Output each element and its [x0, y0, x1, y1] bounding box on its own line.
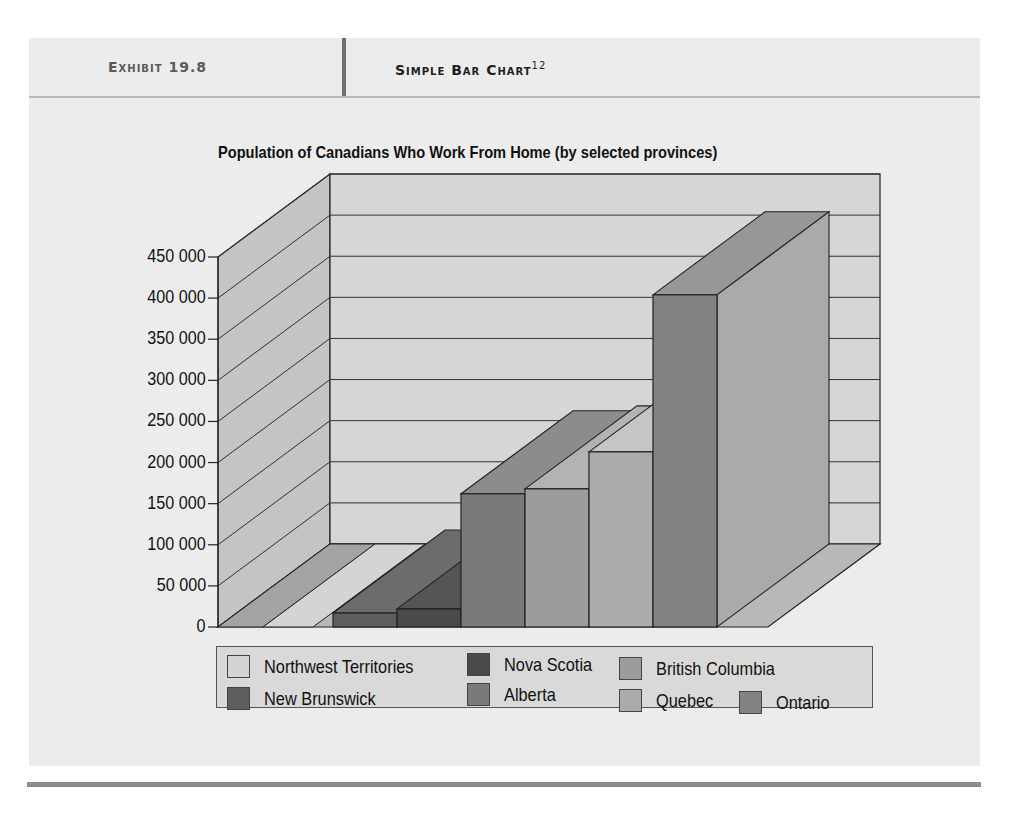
legend-label: Quebec [656, 690, 713, 712]
bar-front-alberta [461, 494, 525, 627]
y-tick-label: 100 000 [148, 533, 206, 555]
legend-swatch [739, 691, 762, 714]
bar-front-british-columbia [525, 489, 589, 627]
y-tick-label: 250 000 [148, 409, 206, 431]
y-tick-label: 50 000 [157, 574, 206, 596]
chart-legend: Northwest TerritoriesNova ScotiaBritish … [216, 646, 873, 708]
bar-front-new-brunswick [333, 613, 397, 627]
legend-item: Nova Scotia [467, 653, 606, 676]
y-tick-label: 450 000 [148, 245, 206, 267]
legend-swatch [227, 655, 250, 678]
legend-item: Alberta [467, 683, 564, 706]
y-tick-label: 400 000 [148, 286, 206, 308]
legend-item: Northwest Territories [227, 655, 438, 678]
bar-front-quebec [589, 452, 653, 627]
legend-item: Ontario [739, 691, 838, 714]
legend-label: New Brunswick [264, 688, 376, 710]
y-tick-label: 300 000 [148, 368, 206, 390]
legend-item: Quebec [619, 689, 723, 712]
legend-swatch [619, 689, 642, 712]
y-tick-label: 350 000 [148, 327, 206, 349]
legend-label: Alberta [504, 684, 556, 706]
legend-swatch [227, 687, 250, 710]
y-tick-label: 150 000 [148, 492, 206, 514]
bottom-rule [27, 782, 981, 787]
legend-item: British Columbia [619, 657, 794, 680]
legend-swatch [619, 657, 642, 680]
legend-label: British Columbia [656, 658, 775, 680]
legend-label: Nova Scotia [504, 654, 592, 676]
y-axis-labels: 050 000100 000150 000200 000250 000300 0… [100, 0, 206, 821]
y-tick-label: 200 000 [148, 451, 206, 473]
y-tick-label: 0 [197, 615, 206, 637]
legend-swatch [467, 653, 490, 676]
legend-swatch [467, 683, 490, 706]
bar-front-ontario [653, 295, 717, 627]
legend-label: Northwest Territories [264, 656, 414, 678]
legend-item: New Brunswick [227, 687, 394, 710]
bar-front-nova-scotia [397, 609, 461, 627]
legend-label: Ontario [776, 692, 830, 714]
